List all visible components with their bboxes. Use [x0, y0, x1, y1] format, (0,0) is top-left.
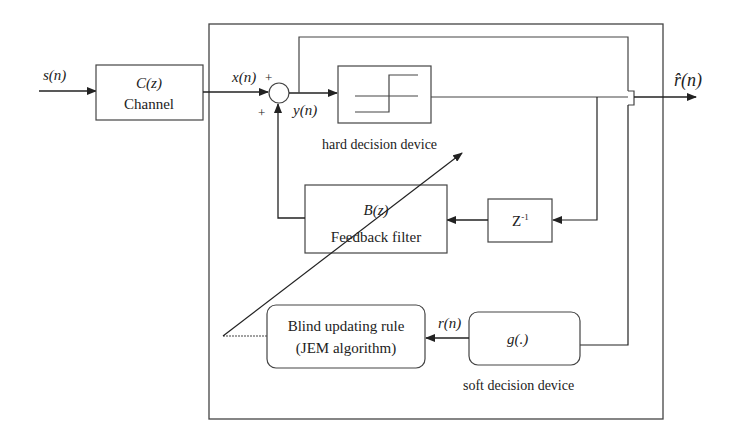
soft-decision-function: g(.) [507, 331, 528, 348]
equalizer-output-label: y(n) [291, 102, 317, 119]
blind-update-title: Blind updating rule [288, 318, 405, 334]
channel-transfer-label: C(z) [136, 75, 162, 92]
hard-decision-block [338, 66, 431, 123]
summer-plus-bottom: + [258, 105, 265, 120]
decision-output-label: r̂(n) [674, 70, 702, 91]
delay-input-arrow [553, 97, 597, 220]
input-signal-label: s(n) [43, 67, 66, 84]
summer-node [269, 83, 289, 103]
line-crossing-jump [628, 91, 634, 105]
channel-output-label: x(n) [231, 69, 256, 86]
hard-decision-label: hard decision device [322, 137, 437, 152]
soft-decision-block: g(.) [469, 312, 580, 365]
channel-block: C(z) Channel [96, 65, 203, 120]
summer-plus-top: + [265, 70, 272, 85]
soft-decision-label: soft decision device [463, 378, 574, 393]
soft-decision-input-arrow [556, 105, 628, 345]
blind-update-subtitle: (JEM algorithm) [296, 340, 396, 357]
delay-block: Z-1 [488, 199, 552, 242]
soft-output-label: r(n) [438, 315, 461, 332]
channel-name-label: Channel [124, 96, 174, 112]
feedback-transfer-label: B(z) [364, 202, 389, 219]
blind-update-block: Blind updating rule (JEM algorithm) [267, 305, 425, 368]
feedback-to-summer-arrow [278, 104, 305, 218]
block-diagram: s(n) C(z) Channel x(n) + + y(n) hard dec… [0, 0, 729, 440]
